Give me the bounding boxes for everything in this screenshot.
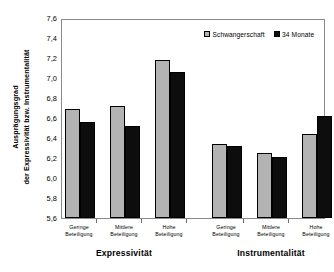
x-axis-category-label-line: Beteiligung (290, 231, 334, 238)
bar (227, 146, 242, 218)
bar (257, 153, 272, 218)
legend-label: Schwangerschaft (213, 31, 265, 38)
x-axis-tick-mark (141, 219, 142, 223)
bar (155, 60, 170, 218)
y-axis-tick-label: 7,2 (35, 54, 57, 64)
x-axis-category-label-line: Hohe (290, 224, 334, 231)
legend-swatch-light (204, 31, 210, 37)
y-axis-tick-label: 7,6 (35, 14, 57, 24)
legend-label: 34 Monate (282, 31, 314, 38)
x-axis-category-label-line: Hohe (143, 224, 195, 231)
y-axis-tick-label: 5,8 (35, 194, 57, 204)
bar (212, 144, 227, 218)
plot-area (61, 19, 325, 219)
bar (272, 157, 287, 218)
x-axis-category-label-line: Beteiligung (143, 231, 195, 238)
bar (170, 72, 185, 218)
y-axis-tick-label: 6,8 (35, 94, 57, 104)
bar (110, 106, 125, 218)
group-title: Instrumentalität (211, 248, 331, 258)
y-axis-tick-label: 6,0 (35, 174, 57, 184)
chart-legend: Schwangerschaft34 Monate (204, 28, 314, 40)
bar (317, 116, 332, 218)
bar (80, 122, 95, 218)
group-title: Expressivität (64, 248, 184, 258)
y-axis-tick-label: 6,4 (35, 134, 57, 144)
y-axis-tick-labels: 7,67,47,27,06,86,66,46,26,05,85,6 (0, 19, 57, 219)
legend-entry: 34 Monate (274, 31, 315, 38)
y-axis-tick-label: 6,2 (35, 154, 57, 164)
x-axis-tick-mark (243, 219, 244, 223)
bar (65, 109, 80, 218)
y-axis-tick-label: 5,6 (35, 214, 57, 224)
legend-entry: Schwangerschaft (204, 31, 265, 38)
bar-chart-figure: Ausprägungsgrad der Expressivität bzw. I… (0, 0, 334, 272)
y-axis-tick-label: 6,6 (35, 114, 57, 124)
x-axis-category-label: HoheBeteiligung (143, 224, 195, 238)
x-axis-category-label: HoheBeteiligung (290, 224, 334, 238)
y-axis-tick-label: 7,0 (35, 74, 57, 84)
legend-swatch-dark (274, 31, 280, 37)
x-axis-tick-mark (288, 219, 289, 223)
x-axis-tick-mark (186, 219, 187, 223)
bar (302, 134, 317, 218)
bar (125, 126, 140, 218)
y-axis-tick-label: 7,4 (35, 34, 57, 44)
x-axis-tick-mark (96, 219, 97, 223)
